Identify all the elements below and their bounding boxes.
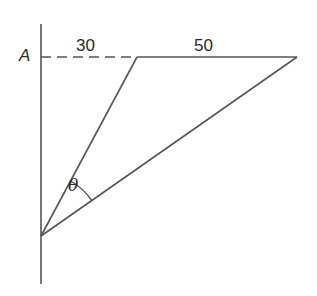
point-a-label: A bbox=[19, 46, 30, 66]
dashed-length-label: 30 bbox=[76, 36, 95, 56]
geometry-figure bbox=[0, 0, 317, 296]
inner-line bbox=[41, 57, 137, 236]
solid-length-label: 50 bbox=[194, 36, 213, 56]
angle-theta-label: θ bbox=[68, 175, 78, 195]
outer-line bbox=[41, 57, 297, 236]
